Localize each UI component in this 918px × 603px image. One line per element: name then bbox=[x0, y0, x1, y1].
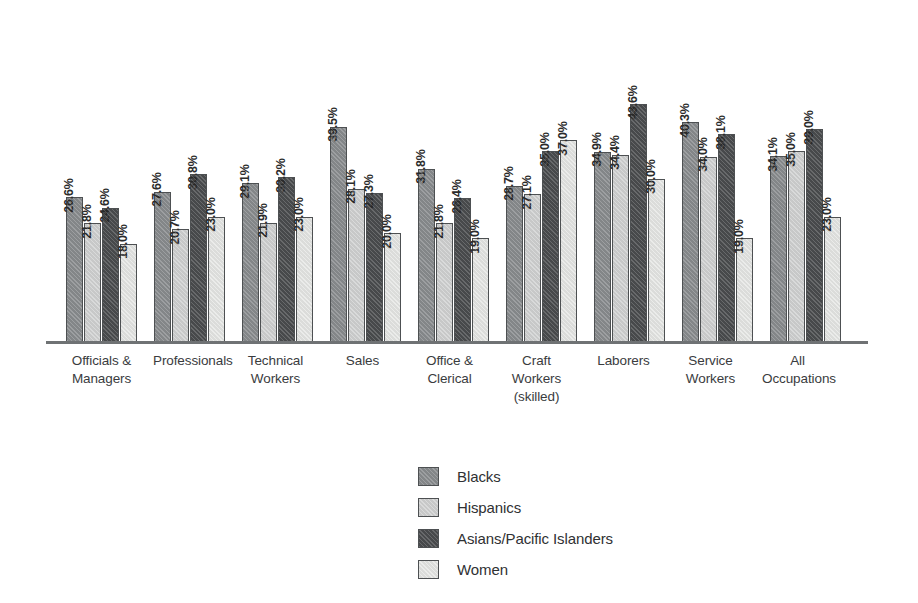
bar-wrapper: 20.7% bbox=[172, 40, 189, 342]
bar-group: 26.6%21.8%24.6%18.0% bbox=[66, 40, 138, 342]
bar-value-label: 35.0% bbox=[784, 132, 797, 166]
bar-wrapper: 34.1% bbox=[770, 40, 787, 342]
bar-value-label: 18.0% bbox=[116, 225, 129, 259]
legend-item[interactable]: Women bbox=[418, 556, 758, 582]
bar[interactable]: 21.8% bbox=[84, 223, 101, 342]
legend-swatch bbox=[418, 467, 439, 486]
bar[interactable]: 31.8% bbox=[418, 169, 435, 342]
bar[interactable]: 34.9% bbox=[594, 152, 611, 342]
bar-value-label: 24.6% bbox=[98, 189, 111, 223]
bar-value-label: 27.1% bbox=[520, 175, 533, 209]
legend-label: Women bbox=[457, 561, 508, 578]
bar[interactable]: 23.0% bbox=[208, 217, 225, 342]
bar[interactable]: 20.0% bbox=[384, 233, 401, 342]
bar-value-label: 40.3% bbox=[678, 103, 691, 137]
bar-wrapper: 38.1% bbox=[718, 40, 735, 342]
bar-wrapper: 35.0% bbox=[788, 40, 805, 342]
bar-value-label: 30.0% bbox=[644, 159, 657, 193]
bar-wrapper: 18.0% bbox=[120, 40, 137, 342]
bar-wrapper: 19.0% bbox=[472, 40, 489, 342]
bar-wrapper: 19.0% bbox=[736, 40, 753, 342]
bar-value-label: 31.8% bbox=[414, 149, 427, 183]
bar[interactable]: 37.0% bbox=[560, 140, 577, 342]
bar-wrapper: 27.1% bbox=[524, 40, 541, 342]
bar[interactable]: 21.9% bbox=[260, 223, 277, 342]
bar-wrapper: 37.0% bbox=[560, 40, 577, 342]
category-label: TechnicalWorkers bbox=[240, 352, 311, 404]
bar[interactable]: 39.0% bbox=[806, 129, 823, 342]
category-label-line: Professionals bbox=[153, 352, 224, 370]
bar[interactable]: 18.0% bbox=[120, 244, 137, 342]
bar-wrapper: 29.1% bbox=[242, 40, 259, 342]
bar[interactable]: 35.0% bbox=[788, 151, 805, 342]
bar-wrapper: 30.8% bbox=[190, 40, 207, 342]
category-label: Officials &Managers bbox=[66, 352, 137, 404]
category-label-line: Service bbox=[675, 352, 746, 370]
bar-value-label: 34.1% bbox=[766, 137, 779, 171]
bar-value-label: 23.0% bbox=[292, 197, 305, 231]
bar-wrapper: 26.6% bbox=[66, 40, 83, 342]
category-label-line: Clerical bbox=[414, 370, 485, 388]
legend-item[interactable]: Hispanics bbox=[418, 494, 758, 520]
category-label: ServiceWorkers bbox=[675, 352, 746, 404]
bar[interactable]: 39.5% bbox=[330, 127, 347, 342]
bar-value-label: 27.3% bbox=[362, 174, 375, 208]
bar-wrapper: 30.2% bbox=[278, 40, 295, 342]
bar[interactable]: 30.0% bbox=[648, 179, 665, 343]
bar[interactable]: 19.0% bbox=[472, 238, 489, 342]
bar[interactable]: 35.0% bbox=[542, 151, 559, 342]
bar-group: 27.6%20.7%30.8%23.0% bbox=[154, 40, 226, 342]
bar-group: 34.9%34.4%43.6%30.0% bbox=[594, 40, 666, 342]
bar-wrapper: 40.3% bbox=[682, 40, 699, 342]
category-label-line: Laborers bbox=[588, 352, 659, 370]
bar-wrapper: 34.9% bbox=[594, 40, 611, 342]
bar-value-label: 30.2% bbox=[274, 158, 287, 192]
x-axis-baseline bbox=[46, 341, 868, 344]
legend-swatch bbox=[418, 529, 439, 548]
bar[interactable]: 21.8% bbox=[436, 223, 453, 342]
category-label-line: (skilled) bbox=[501, 388, 572, 406]
legend-label: Asians/Pacific Islanders bbox=[457, 530, 613, 547]
bar[interactable]: 23.0% bbox=[824, 217, 841, 342]
bar-wrapper: 30.0% bbox=[648, 40, 665, 342]
bar-value-label: 38.1% bbox=[714, 115, 727, 149]
bar-value-label: 21.8% bbox=[432, 204, 445, 238]
bar-value-label: 35.0% bbox=[538, 132, 551, 166]
bar-value-label: 20.0% bbox=[380, 214, 393, 248]
category-label-line: Officials & bbox=[66, 352, 137, 370]
legend-item[interactable]: Asians/Pacific Islanders bbox=[418, 525, 758, 551]
bar[interactable]: 43.6% bbox=[630, 104, 647, 342]
category-label-line: Office & bbox=[414, 352, 485, 370]
bar-value-label: 20.7% bbox=[168, 210, 181, 244]
bar-group: 40.3%34.0%38.1%19.0% bbox=[682, 40, 754, 342]
bar-value-label: 34.9% bbox=[590, 133, 603, 167]
bar-value-label: 28.7% bbox=[502, 166, 515, 200]
bar-wrapper: 23.0% bbox=[296, 40, 313, 342]
bar-value-label: 27.6% bbox=[150, 172, 163, 206]
bar-value-label: 23.0% bbox=[204, 197, 217, 231]
bar-value-label: 29.1% bbox=[238, 164, 251, 198]
bar[interactable]: 19.0% bbox=[736, 238, 753, 342]
bar[interactable]: 20.7% bbox=[172, 229, 189, 342]
bar[interactable]: 28.1% bbox=[348, 189, 365, 342]
bar-value-label: 21.9% bbox=[256, 203, 269, 237]
bar[interactable]: 34.4% bbox=[612, 155, 629, 342]
category-label: Professionals bbox=[153, 352, 224, 404]
legend-item[interactable]: Blacks bbox=[418, 463, 758, 489]
bar[interactable]: 27.1% bbox=[524, 194, 541, 342]
bar[interactable]: 23.0% bbox=[296, 217, 313, 342]
legend-swatch bbox=[418, 498, 439, 517]
bar-value-label: 21.8% bbox=[80, 204, 93, 238]
bar-wrapper: 35.0% bbox=[542, 40, 559, 342]
bar-wrapper: 20.0% bbox=[384, 40, 401, 342]
bar-wrapper: 24.6% bbox=[102, 40, 119, 342]
bar[interactable]: 34.0% bbox=[700, 157, 717, 342]
bar-wrapper: 23.0% bbox=[824, 40, 841, 342]
bar-value-label: 43.6% bbox=[626, 85, 639, 119]
bar[interactable]: 34.1% bbox=[770, 156, 787, 342]
bar-value-label: 28.1% bbox=[344, 170, 357, 204]
bar-group: 28.7%27.1%35.0%37.0% bbox=[506, 40, 578, 342]
bar-group: 34.1%35.0%39.0%23.0% bbox=[770, 40, 842, 342]
bar-value-label: 34.4% bbox=[608, 135, 621, 169]
bar-wrapper: 39.0% bbox=[806, 40, 823, 342]
